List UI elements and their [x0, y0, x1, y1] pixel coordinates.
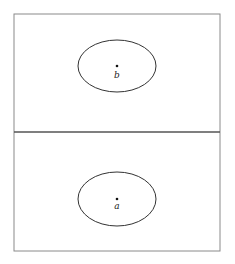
- label-a: a: [114, 201, 119, 211]
- label-b: b: [114, 70, 120, 80]
- lower-region: a: [78, 172, 156, 226]
- upper-region: b: [78, 40, 156, 92]
- diagram-canvas: b a: [0, 0, 235, 264]
- point-b: [116, 65, 119, 68]
- point-a: [116, 198, 119, 201]
